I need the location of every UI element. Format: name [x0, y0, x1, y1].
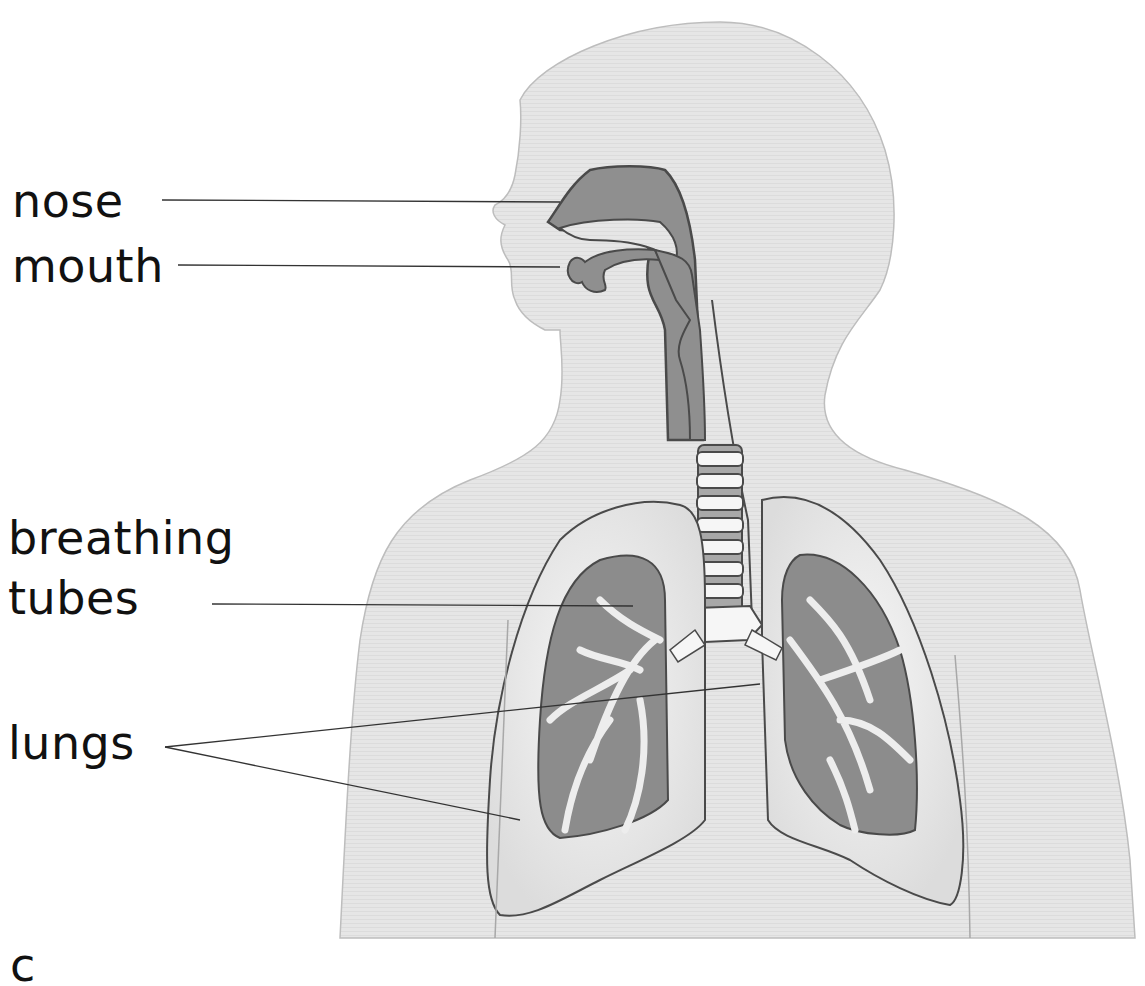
- label-lungs: lungs: [8, 720, 135, 766]
- label-tubes: tubes: [8, 575, 139, 621]
- label-mouth: mouth: [12, 243, 164, 289]
- label-breathing: breathing: [8, 515, 234, 561]
- page-fragment-text: c: [10, 942, 35, 986]
- leader-line-mouth: [178, 265, 560, 267]
- label-nose: nose: [12, 178, 124, 224]
